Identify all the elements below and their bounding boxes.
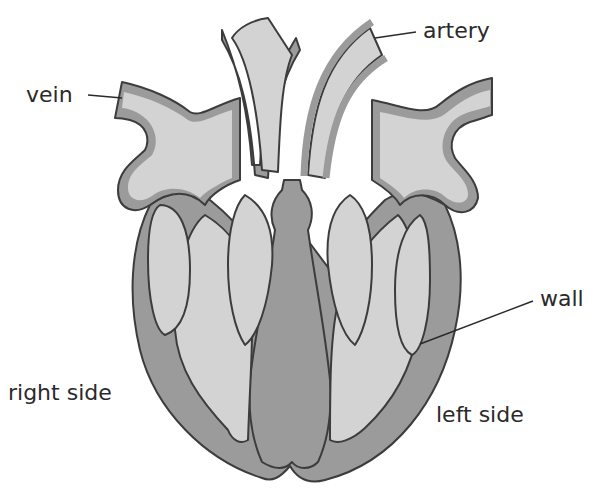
left-side-label: left side <box>436 404 524 426</box>
right-valve-flap <box>148 205 190 335</box>
artery-label: artery <box>423 20 490 42</box>
wall-label: wall <box>540 288 584 310</box>
right-side-label: right side <box>8 382 112 404</box>
vein-label: vein <box>26 84 73 106</box>
vein-leader-line <box>88 95 122 98</box>
artery-leader-line <box>375 32 416 38</box>
